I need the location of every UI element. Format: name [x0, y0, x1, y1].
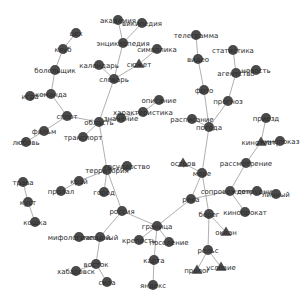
node-label: игра	[22, 93, 39, 101]
graph-node: фильм	[32, 126, 56, 136]
node-label: погода	[196, 124, 222, 132]
graph-node: граница	[142, 221, 173, 231]
graph-node: кинопоказ	[261, 136, 300, 146]
graph-node: россия	[109, 206, 134, 216]
node-label: сила	[98, 279, 115, 287]
node-label: кинопоказ	[261, 138, 300, 146]
graph-node: трава	[12, 177, 33, 187]
node-label: река	[182, 196, 199, 204]
graph-node: край	[70, 176, 88, 186]
graph-node: фото	[195, 85, 214, 95]
graph-node: яндекс	[140, 280, 166, 290]
graph-node: символика	[137, 44, 177, 54]
graph-node: цех	[69, 28, 82, 38]
graph-node: государство	[104, 161, 150, 171]
node-label: граница	[142, 223, 173, 231]
node-label: поселение	[149, 239, 188, 247]
graph-node: личный	[262, 189, 290, 199]
node-label: любовь	[12, 139, 39, 147]
node-label: википедия	[122, 20, 162, 28]
node-label: прогноз	[213, 98, 243, 106]
graph-node: любовь	[12, 137, 39, 147]
node-label: расписание	[170, 116, 213, 124]
graph-node: остров	[170, 158, 195, 168]
node-label: спорт	[56, 113, 77, 121]
node-label: пролал	[48, 188, 75, 196]
graph-node: новость	[241, 65, 270, 75]
graph-node: словарь	[99, 74, 129, 84]
node-label: транспорт	[64, 134, 103, 142]
graph-node: команда	[35, 89, 67, 99]
graph-node: поселение	[149, 237, 188, 247]
graph-edge	[202, 127, 209, 173]
graph-node: хабаровск	[57, 266, 95, 276]
graph-node: телеграмма	[174, 30, 218, 40]
graph-node: море	[193, 168, 211, 178]
node-label: телеграмма	[174, 32, 218, 40]
node-label: характеристика	[113, 109, 173, 117]
node-label: условие	[206, 264, 236, 272]
graph-node: видео	[187, 54, 209, 64]
node-label: западный	[82, 234, 118, 242]
graph-node: пролал	[48, 186, 75, 196]
graph-node: описание	[142, 95, 177, 105]
node-label: календарь	[79, 62, 119, 70]
node-label: карта	[143, 257, 164, 265]
node-label: новость	[241, 67, 270, 75]
node-label: берег	[198, 211, 219, 219]
node-label: россия	[109, 208, 134, 216]
graph-node: рельс	[197, 245, 218, 255]
graph-node: погода	[196, 122, 222, 132]
node-label: болельщик	[34, 67, 75, 75]
node-label: цех	[69, 30, 82, 38]
node-label: статистика	[212, 47, 254, 55]
graph-node: кошка	[23, 217, 46, 227]
node-label: личный	[262, 191, 290, 199]
graph-node: игра	[22, 91, 39, 101]
graph-node: город	[93, 187, 115, 197]
node-label: рельс	[197, 247, 218, 255]
network-graph: цехклубболельщиккомандаиграспортфильмлюб…	[0, 0, 305, 306]
graph-nodes: цехклубболельщиккомандаиграспортфильмлюб…	[12, 15, 299, 290]
graph-node: сила	[98, 277, 115, 287]
node-label: приезд	[253, 115, 280, 123]
node-label: сюжет	[127, 61, 151, 69]
graph-node: куст	[20, 197, 36, 207]
node-label: словарь	[99, 76, 129, 84]
graph-node: кинопрокат	[223, 207, 267, 217]
graph-node: статистика	[212, 45, 254, 55]
node-label: видео	[187, 56, 209, 64]
node-label: яндекс	[140, 282, 166, 290]
node-label: клуб	[54, 46, 71, 54]
graph-node: календарь	[79, 60, 119, 70]
graph-node: западный	[82, 232, 118, 242]
node-label: символика	[137, 46, 177, 54]
graph-edge	[208, 214, 209, 250]
node-label: хабаровск	[57, 268, 95, 276]
node-label: город	[93, 189, 115, 197]
graph-node: транспорт	[64, 132, 103, 142]
node-label: остров	[170, 160, 195, 168]
node-label: трава	[12, 179, 33, 187]
graph-node: болельщик	[34, 65, 75, 75]
graph-node: берег	[198, 209, 219, 219]
graph-node: река	[182, 194, 199, 204]
graph-node: характеристика	[113, 107, 173, 117]
graph-node: прогноз	[213, 96, 243, 106]
node-label: фото	[195, 87, 214, 95]
node-label: кинопрокат	[223, 209, 267, 217]
node-label: море	[193, 170, 211, 178]
graph-node: спорт	[56, 111, 77, 121]
node-label: кошка	[23, 219, 46, 227]
graph-node: карта	[143, 255, 164, 265]
graph-node: клуб	[54, 44, 71, 54]
graph-node: сюжет	[127, 59, 151, 69]
graph-node: википедия	[122, 18, 162, 28]
node-label: фильм	[32, 128, 56, 136]
graph-node: условие	[206, 262, 236, 272]
graph-node: приезд	[253, 113, 280, 123]
node-label: государство	[104, 163, 150, 171]
graph-node: океан	[215, 227, 237, 237]
node-label: куст	[20, 199, 36, 207]
node-label: край	[70, 178, 88, 186]
